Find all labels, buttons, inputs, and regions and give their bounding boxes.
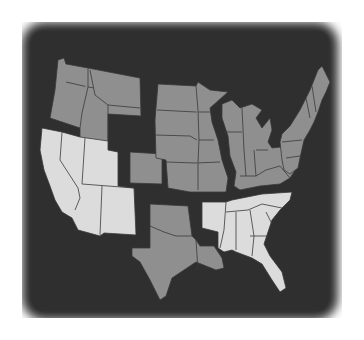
us-regions-map: [0, 0, 364, 340]
region-plains: [155, 82, 228, 192]
map-figure: Contiguous United States divided into re…: [0, 0, 364, 340]
region-northeast: [280, 66, 330, 174]
region-southwest: [40, 128, 136, 236]
region-southeast: [202, 192, 292, 292]
region-northwest: [50, 58, 141, 145]
